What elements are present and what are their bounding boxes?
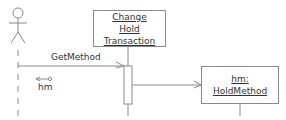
lifeline-label-line: Transaction [104, 35, 156, 47]
message-create-holdmethod-arrow [132, 81, 201, 88]
lifeline-label-line: Hold [119, 23, 140, 35]
message-label-hm: hm [38, 82, 52, 92]
return-hm-token-icon [36, 77, 52, 81]
activation-bar [124, 66, 132, 104]
lifeline-label-line: hm: [231, 73, 249, 85]
lifeline-label-line: Change [112, 11, 146, 23]
lifeline-box-hold-method[interactable]: hm: HoldMethod [201, 66, 279, 104]
message-label-getmethod: GetMethod [51, 52, 101, 62]
lifeline-box-change-hold-transaction[interactable]: Change Hold Transaction [93, 10, 166, 47]
lifeline-label-line: HoldMethod [213, 85, 267, 97]
actor-stick-figure-icon [9, 8, 27, 43]
message-getmethod-arrow [18, 62, 124, 68]
